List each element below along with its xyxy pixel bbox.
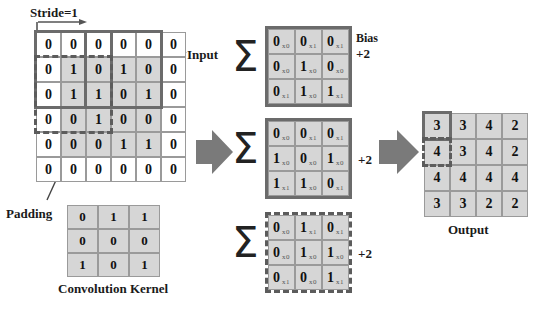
matrix-cell: 0 [86,157,111,182]
matrix-cell: 0 [111,107,136,132]
patch-cell-value: 1 [327,151,334,167]
patch-cell-weight: x1 [309,134,317,142]
convolution-kernel-label: Convolution Kernel [58,281,168,297]
patch-cell-weight: x1 [282,92,290,100]
matrix-cell: 4 [476,139,502,165]
patch-cell-value: 0 [273,245,280,261]
patch-cell-value: 0 [273,34,280,50]
patch-cell-weight: x0 [282,159,290,167]
summation-icon-middle: Σ [232,128,259,170]
patch-cell: 1x0 [322,240,349,265]
patch-cell-weight: x0 [309,67,317,75]
matrix-cell: 0 [36,107,61,132]
matrix-cell: 0 [111,157,136,182]
matrix-cell: 0 [61,157,86,182]
bias-plus-bottom: +2 [358,246,372,262]
patch-cell-value: 0 [327,34,334,50]
matrix-cell: 0 [98,229,129,253]
patch-cell-weight: x1 [309,42,317,50]
patch-cell-weight: x0 [282,253,290,261]
patch-cell: 0x1 [322,215,349,240]
matrix-cell: 2 [502,113,528,139]
patch-cell-weight: x1 [282,278,290,286]
patch-cell-value: 0 [273,270,280,286]
matrix-cell: 4 [424,165,450,191]
patch-cell-weight: x0 [309,92,317,100]
patch-top-matrix: 0x00x10x10x01x00x00x11x01x1 [268,29,349,104]
matrix-cell: 1 [67,253,98,277]
patch-cell: 0x1 [268,79,295,104]
matrix-cell: 0 [36,32,61,57]
arrow-sum-to-output [379,130,419,174]
matrix-cell: 0 [36,157,61,182]
patch-cell: 0x0 [268,240,295,265]
patch-middle-matrix: 0x00x10x11x00x01x01x11x00x1 [268,121,349,196]
patch-cell-value: 1 [273,176,280,192]
patch-cell-weight: x1 [336,42,344,50]
patch-cell-value: 0 [273,126,280,142]
matrix-cell: 1 [86,107,111,132]
bias-plus-middle: +2 [358,152,372,168]
matrix-cell: 0 [161,157,186,182]
padding-label: Padding [6,206,52,222]
output-matrix: 3342434244443322 [424,113,528,217]
matrix-cell: 0 [86,132,111,157]
patch-cell-value: 1 [273,151,280,167]
matrix-cell: 0 [61,32,86,57]
patch-cell: 0x1 [295,121,322,146]
patch-cell: 0x1 [295,29,322,54]
patch-cell: 0x0 [322,54,349,79]
patch-cell-weight: x1 [309,228,317,236]
patch-cell-weight: x0 [336,253,344,261]
matrix-cell: 3 [424,191,450,217]
patch-cell-weight: x0 [309,184,317,192]
patch-cell-value: 1 [327,270,334,286]
matrix-cell: 0 [86,32,111,57]
matrix-cell: 3 [424,113,450,139]
patch-cell: 1x0 [295,79,322,104]
matrix-cell: 1 [129,205,160,229]
patch-cell: 0x0 [295,265,322,290]
bias-value: +2 [356,46,370,62]
convolution-diagram: Stride=1 Input Padding Convolution Kerne… [0,0,546,313]
patch-cell-value: 0 [300,151,307,167]
input-matrix: 000000010100011010001000000110000000 [36,32,186,182]
matrix-cell: 0 [136,157,161,182]
matrix-cell: 2 [502,191,528,217]
patch-cell-value: 1 [300,59,307,75]
matrix-cell: 3 [450,113,476,139]
patch-cell: 1x0 [295,171,322,196]
matrix-cell: 1 [129,253,160,277]
patch-cell-value: 0 [273,59,280,75]
patch-cell-value: 0 [300,34,307,50]
patch-cell-weight: x1 [336,184,344,192]
matrix-cell: 0 [136,57,161,82]
patch-cell: 1x0 [322,146,349,171]
patch-cell-value: 0 [327,59,334,75]
patch-cell: 0x0 [268,121,295,146]
patch-cell-weight: x0 [309,159,317,167]
patch-cell-weight: x0 [282,134,290,142]
matrix-cell: 0 [36,82,61,107]
summation-icon-top: Σ [232,36,259,78]
summation-icon-bottom: Σ [232,222,259,264]
patch-cell-weight: x1 [336,228,344,236]
patch-cell: 0x1 [322,171,349,196]
matrix-cell: 4 [476,113,502,139]
patch-cell-value: 1 [300,220,307,236]
matrix-cell: 1 [86,82,111,107]
patch-cell-value: 1 [300,176,307,192]
patch-cell-value: 1 [300,245,307,261]
patch-cell-value: 0 [327,126,334,142]
matrix-cell: 1 [136,132,161,157]
matrix-cell: 1 [111,132,136,157]
matrix-cell: 1 [98,205,129,229]
patch-cell-value: 0 [327,176,334,192]
patch-cell-weight: x0 [282,67,290,75]
matrix-cell: 0 [61,107,86,132]
matrix-cell: 2 [476,191,502,217]
patch-cell-value: 1 [327,84,334,100]
matrix-cell: 0 [36,57,61,82]
bias-label: Bias [356,31,378,46]
matrix-cell: 0 [36,132,61,157]
